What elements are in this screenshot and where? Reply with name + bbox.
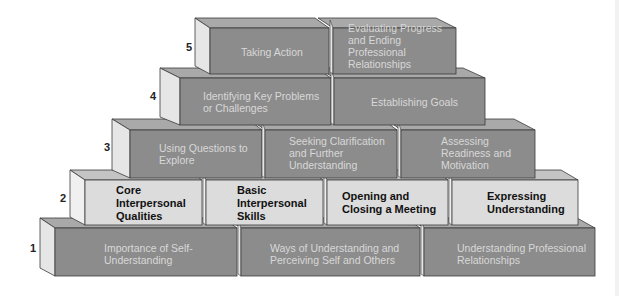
brick-label: Basic Interpersonal Skills (237, 182, 323, 224)
brick-using-questions-to-explore: Using Questions to Explore (112, 119, 264, 179)
level-label-5: 5 (186, 41, 192, 53)
brick-label: Identifying Key Problems or Challenges (203, 84, 331, 120)
level-label-1: 1 (30, 242, 36, 254)
brick-taking-action: Taking Action (195, 18, 331, 75)
brick-label: Taking Action (241, 40, 329, 64)
brick-label: Evaluating Progress and Ending Professio… (348, 18, 456, 74)
brick-evaluating-progress: Evaluating Progress and Ending Professio… (318, 18, 458, 75)
brick-label: Seeking Clarification and Further Unders… (289, 133, 397, 173)
brick-label: Understanding Professional Relationships (457, 240, 597, 268)
brick-assessing-readiness: Assessing Readiness and Motivation (386, 119, 536, 179)
page-edge (615, 0, 619, 296)
level-label-4: 4 (150, 90, 156, 102)
brick-label: Assessing Readiness and Motivation (441, 133, 531, 173)
brick-importance-of-self-understanding: Importance of Self-Understanding (40, 218, 240, 278)
brick-identifying-key-problems: Identifying Key Problems or Challenges (160, 68, 333, 126)
brick-label: Expressing Understanding (487, 182, 577, 224)
level-label-3: 3 (104, 141, 110, 153)
brick-label: Core Interpersonal Qualities (116, 182, 202, 224)
brick-label: Importance of Self-Understanding (104, 240, 230, 268)
brick-understanding-professional-relationships: Understanding Professional Relationships (409, 218, 599, 278)
brick-seeking-clarification: Seeking Clarification and Further Unders… (250, 119, 399, 179)
pyramid-diagram: 1 Importance of Self-Understanding Ways … (0, 0, 619, 296)
brick-label: Ways of Understanding and Perceiving Sel… (270, 240, 420, 268)
level-label-2: 2 (60, 192, 66, 204)
brick-establishing-goals: Establishing Goals (319, 68, 487, 126)
brick-label: Opening and Closing a Meeting (342, 182, 446, 224)
brick-label: Establishing Goals (371, 84, 481, 120)
brick-ways-of-understanding: Ways of Understanding and Perceiving Sel… (226, 218, 424, 278)
brick-label: Using Questions to Explore (159, 137, 259, 171)
